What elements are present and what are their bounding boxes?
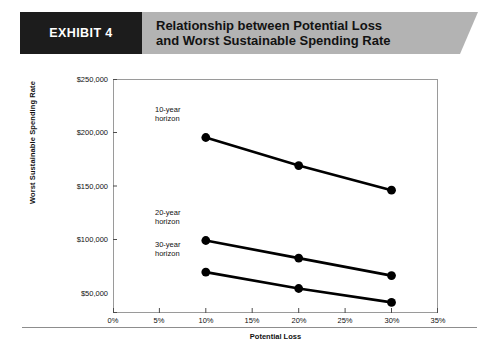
- x-tick-label: 20%: [279, 316, 319, 325]
- exhibit-number-label: EXHIBIT 4: [49, 26, 112, 40]
- x-tick-label: 0%: [93, 316, 133, 325]
- x-axis-tick-labels: 0% 5% 10% 15% 20% 25% 30% 35%: [0, 60, 498, 310]
- x-tick-label: 35%: [418, 316, 458, 325]
- x-tick-label: 30%: [372, 316, 412, 325]
- page-bottom-rule: [22, 327, 477, 328]
- x-tick-label: 10%: [186, 316, 226, 325]
- x-tick-label: 5%: [139, 316, 179, 325]
- exhibit-number-tag: EXHIBIT 4: [20, 12, 142, 54]
- exhibit-title: Relationship between Potential Loss and …: [156, 12, 456, 54]
- x-tick-label: 25%: [325, 316, 365, 325]
- x-axis-title: Potential Loss: [113, 332, 438, 341]
- exhibit-title-line-2: and Worst Sustainable Spending Rate: [156, 33, 456, 48]
- exhibit-header-banner: EXHIBIT 4 Relationship between Potential…: [20, 12, 478, 54]
- chart-region: Worst Sustainable Spending Rate $250,000…: [0, 60, 498, 310]
- x-tick-label: 15%: [232, 316, 272, 325]
- exhibit-title-line-1: Relationship between Potential Loss: [156, 18, 456, 33]
